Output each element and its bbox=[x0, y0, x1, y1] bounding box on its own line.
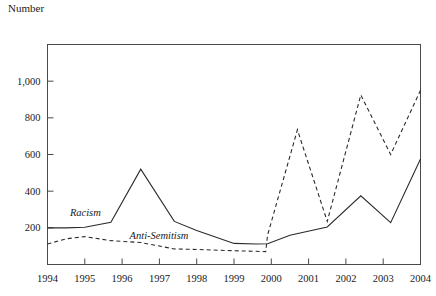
x-tick-label: 1994 bbox=[37, 273, 59, 284]
x-tick-label: 2000 bbox=[261, 273, 282, 284]
series-label-racism: Racism bbox=[69, 207, 101, 218]
x-tick-label: 1997 bbox=[149, 273, 170, 284]
x-tick-label: 2001 bbox=[298, 273, 319, 284]
x-tick-label: 1998 bbox=[186, 273, 207, 284]
chart-figure: Number 2004006008001,000 199419951996199… bbox=[0, 0, 436, 296]
series-line-racism bbox=[48, 159, 421, 244]
x-tick-label: 1995 bbox=[74, 273, 95, 284]
chart-plot-area: 2004006008001,000 1994199519961997199819… bbox=[0, 0, 436, 296]
x-tick-label: 2002 bbox=[335, 273, 356, 284]
y-tick-label: 400 bbox=[25, 186, 41, 197]
series-line-anti-semitism bbox=[48, 90, 421, 251]
x-tick-label: 2004 bbox=[410, 273, 432, 284]
y-tick-label: 600 bbox=[25, 149, 41, 160]
series-label-anti-semitism: Anti-Semitism bbox=[129, 230, 189, 241]
series-inline-labels: RacismAnti-Semitism bbox=[69, 207, 189, 240]
plot-frame bbox=[48, 45, 421, 265]
x-tick-label: 1999 bbox=[224, 273, 245, 284]
x-tick-label: 1996 bbox=[112, 273, 133, 284]
x-tick-label: 2003 bbox=[373, 273, 394, 284]
y-tick-label: 200 bbox=[25, 222, 41, 233]
y-tick-label: 1,000 bbox=[17, 76, 41, 87]
y-axis-ticks: 2004006008001,000 bbox=[17, 76, 54, 234]
y-tick-label: 800 bbox=[25, 112, 41, 123]
data-series-group bbox=[48, 90, 421, 251]
x-axis-ticks: 1994199519961997199819992000200120022003… bbox=[37, 259, 432, 284]
